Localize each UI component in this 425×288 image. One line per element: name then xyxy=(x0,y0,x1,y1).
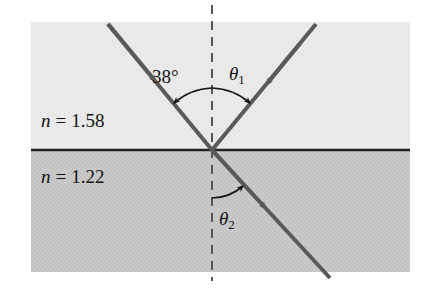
reflected-angle-symbol: θ xyxy=(229,63,238,84)
refraction-diagram: n=1.58 n=1.22 38° θ1 θ2 xyxy=(0,0,425,288)
incident-angle-label: 38° xyxy=(152,66,179,87)
refracted-angle-subscript: 2 xyxy=(228,217,235,232)
lower-medium-index-value: 1.22 xyxy=(71,166,104,187)
media-panels xyxy=(31,22,410,272)
upper-medium-index-value: 1.58 xyxy=(71,110,104,131)
reflected-angle-subscript: 1 xyxy=(238,72,245,87)
refracted-angle-symbol: θ xyxy=(219,208,228,229)
diagram-canvas: n=1.58 n=1.22 38° θ1 θ2 xyxy=(0,0,425,288)
